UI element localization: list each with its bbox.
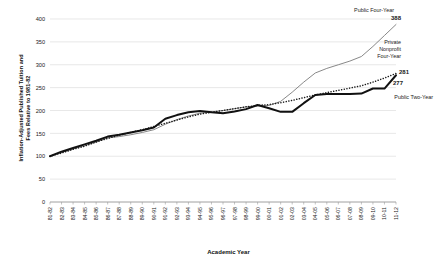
tuition-index-line-chart: Inflation-Adjusted Published Tuition and… xyxy=(0,0,435,271)
y-tick-label: 100 xyxy=(36,153,45,159)
series-line-private-nonprofit-four-year xyxy=(50,73,396,156)
x-tick-label: 89-90 xyxy=(139,207,145,220)
x-tick-label: 81-82 xyxy=(47,207,53,220)
y-tick-label: 400 xyxy=(36,16,45,22)
x-tick-label: 05-06 xyxy=(324,207,330,220)
x-axis-title-text: Academic Year xyxy=(207,249,250,255)
y-tick-label: 0 xyxy=(42,199,45,205)
x-tick-label: 90-91 xyxy=(151,207,157,220)
x-tick-label: 82-83 xyxy=(59,207,65,220)
annotation-label-public-two-year: Public Two-Year xyxy=(394,94,433,100)
annotation-label-private-nonprofit-four-year: Four-Year xyxy=(377,53,401,59)
annotation-label-private-nonprofit-four-year: Private xyxy=(384,39,401,45)
x-tick-label: 09-10 xyxy=(370,207,376,220)
x-tick-label: 86-87 xyxy=(105,207,111,220)
x-tick-label: 11-12 xyxy=(393,207,399,220)
x-tick-label: 95-96 xyxy=(208,207,214,220)
x-tick-label: 94-95 xyxy=(197,207,203,220)
x-tick-label: 01-02 xyxy=(278,207,284,220)
x-tick-label: 87-88 xyxy=(116,207,122,220)
y-tick-label: 50 xyxy=(39,176,45,182)
y-tick-label: 350 xyxy=(36,39,45,45)
y-tick-label: 150 xyxy=(36,131,45,137)
x-tick-label: 92-93 xyxy=(174,207,180,220)
x-tick-label: 96-97 xyxy=(220,207,226,220)
annotation-value-private-nonprofit-four-year: 281 xyxy=(399,69,410,75)
annotation-value-public-four-year: 388 xyxy=(391,15,402,21)
annotation-label-public-four-year: Public Four-Year xyxy=(354,7,394,13)
y-axis-tick-labels: 050100150200250300350400 xyxy=(36,16,45,205)
x-tick-label: 00-01 xyxy=(266,207,272,220)
y-tick-label: 300 xyxy=(36,62,45,68)
x-tick-label: 10-11 xyxy=(381,207,387,220)
x-axis-title: Academic Year xyxy=(0,249,435,255)
series-line-public-four-year xyxy=(50,24,396,156)
x-tick-label: 08-09 xyxy=(358,207,364,220)
annotation-label-private-nonprofit-four-year: Nonprofit xyxy=(379,46,401,52)
x-tick-label: 93-94 xyxy=(185,207,191,220)
x-tick-label: 99-00 xyxy=(255,207,261,220)
x-tick-label: 88-89 xyxy=(128,207,134,220)
x-tick-label: 97-98 xyxy=(232,207,238,220)
x-tick-label: 04-05 xyxy=(312,207,318,220)
series-annotations: Public Four-Year388PrivateNonprofitFour-… xyxy=(354,7,433,100)
y-axis-title-line-2: Fees Relative to 1981-82 xyxy=(25,54,32,161)
data-series-lines xyxy=(50,24,396,156)
x-tick-label: 84-85 xyxy=(82,207,88,220)
y-axis-title: Inflation-Adjusted Published Tuition and… xyxy=(14,0,36,215)
x-tick-label: 07-08 xyxy=(347,207,353,220)
x-tick-label: 85-86 xyxy=(93,207,99,220)
chart-plot-area: 050100150200250300350400 81-8282-8383-84… xyxy=(0,0,435,271)
x-tick-label: 83-84 xyxy=(70,207,76,220)
x-tick-label: 91-92 xyxy=(162,207,168,220)
x-tick-label: 98-99 xyxy=(243,207,249,220)
x-tick-label: 02-03 xyxy=(289,207,295,220)
y-tick-label: 200 xyxy=(36,108,45,114)
x-axis-tick-labels: 81-8282-8383-8484-8585-8686-8787-8888-89… xyxy=(47,207,399,220)
annotation-value-public-two-year: 277 xyxy=(393,80,404,86)
x-tick-label: 06-07 xyxy=(335,207,341,220)
y-tick-label: 250 xyxy=(36,85,45,91)
x-tick-label: 03-04 xyxy=(301,207,307,220)
